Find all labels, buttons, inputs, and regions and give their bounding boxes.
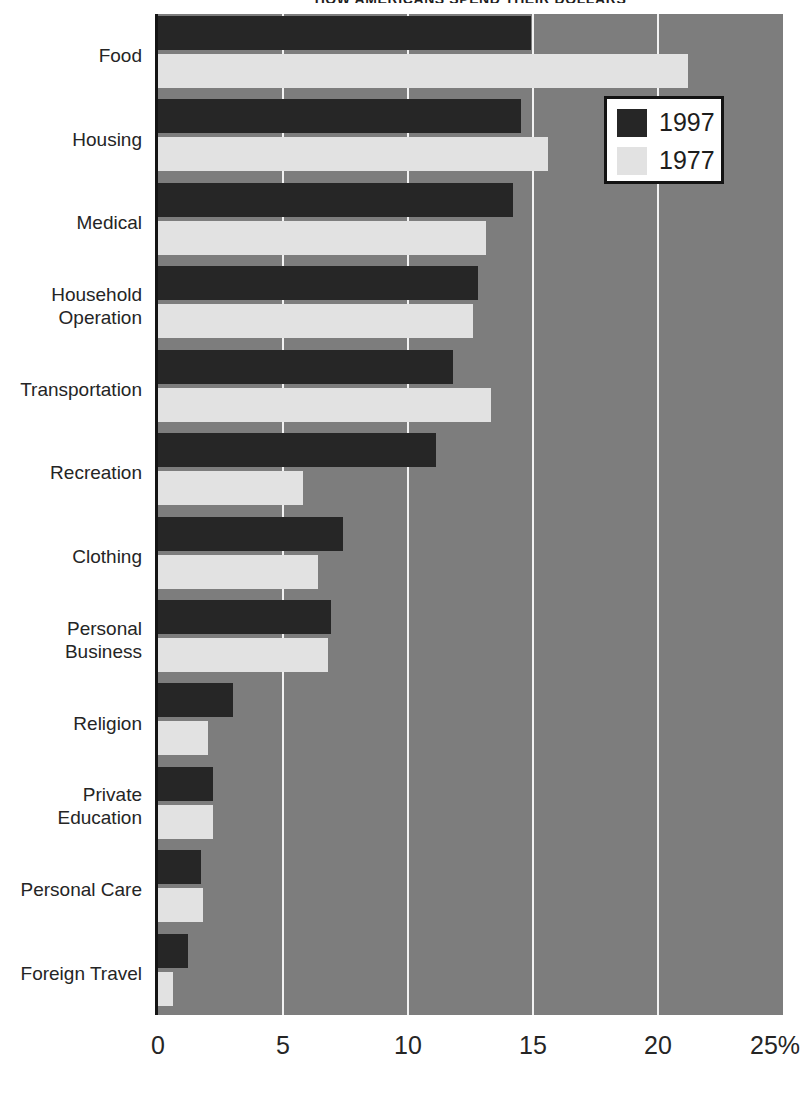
legend-label-1977: 1977: [659, 145, 715, 176]
y-axis-line: [155, 14, 158, 1015]
bar-group: [158, 681, 783, 764]
x-tick-5: 5: [276, 1030, 290, 1060]
legend-item-1977: 1977: [617, 145, 717, 177]
category-label: Personal Care: [0, 878, 142, 901]
legend-swatch-1977: [617, 147, 647, 175]
legend-label-1997: 1997: [659, 107, 715, 138]
category-label: Private Education: [0, 783, 142, 829]
bar-1977: [158, 972, 173, 1006]
bar-1997: [158, 850, 201, 884]
bar-group: [158, 765, 783, 848]
category-label: Transportation: [0, 378, 142, 401]
x-tick-20: 20: [644, 1030, 672, 1060]
x-tick-0: 0: [151, 1030, 165, 1060]
category-label: Personal Business: [0, 617, 142, 663]
category-label: Foreign Travel: [0, 962, 142, 985]
x-tick-15: 15: [519, 1030, 547, 1060]
category-label: Food: [0, 44, 142, 67]
bar-1977: [158, 137, 548, 171]
category-label: Clothing: [0, 545, 142, 568]
category-axis-labels: FoodHousingMedicalHousehold OperationTra…: [0, 14, 150, 1015]
bar-group: [158, 515, 783, 598]
bar-group: [158, 431, 783, 514]
category-label: Household Operation: [0, 283, 142, 329]
bar-group: [158, 848, 783, 931]
bar-1997: [158, 183, 513, 217]
category-label: Religion: [0, 712, 142, 735]
bar-1977: [158, 221, 486, 255]
bar-group: [158, 264, 783, 347]
bar-1997: [158, 16, 531, 50]
x-axis-tick-labels: 0510152025%: [0, 1030, 806, 1070]
category-label: Recreation: [0, 461, 142, 484]
chart-legend: 1997 1977: [604, 96, 724, 184]
bar-1997: [158, 934, 188, 968]
category-label: Housing: [0, 128, 142, 151]
bar-1977: [158, 805, 213, 839]
chart-title: HOW AMERICANS SPEND THEIR DOLLARS: [158, 0, 783, 3]
bar-group: [158, 598, 783, 681]
category-label: Medical: [0, 211, 142, 234]
bar-1997: [158, 99, 521, 133]
x-tick-25%: 25%: [750, 1030, 800, 1060]
bar-1997: [158, 350, 453, 384]
legend-swatch-1997: [617, 109, 647, 137]
bar-1977: [158, 721, 208, 755]
bar-1977: [158, 388, 491, 422]
bar-1977: [158, 54, 688, 88]
bar-1997: [158, 767, 213, 801]
bar-1997: [158, 433, 436, 467]
bar-1977: [158, 304, 473, 338]
x-tick-10: 10: [394, 1030, 422, 1060]
bar-group: [158, 932, 783, 1015]
bar-1977: [158, 888, 203, 922]
bar-1997: [158, 683, 233, 717]
bar-group: [158, 181, 783, 264]
bar-1977: [158, 555, 318, 589]
bar-group: [158, 14, 783, 97]
legend-item-1997: 1997: [617, 107, 717, 139]
bar-1997: [158, 266, 478, 300]
bar-1977: [158, 471, 303, 505]
bar-1997: [158, 517, 343, 551]
bar-group: [158, 348, 783, 431]
bar-1997: [158, 600, 331, 634]
bar-1977: [158, 638, 328, 672]
bar-chart: HOW AMERICANS SPEND THEIR DOLLARS FoodHo…: [0, 0, 806, 1096]
